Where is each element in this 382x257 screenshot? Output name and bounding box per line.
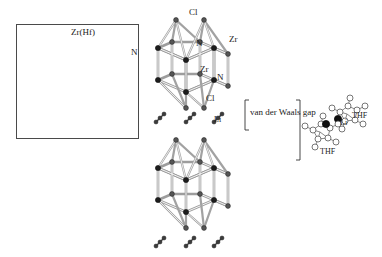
label-li-interlayer: Li [214, 116, 221, 124]
label-zr-upper: Zr [229, 35, 238, 44]
label-thf-upper: THF [352, 112, 367, 120]
label-nitrogen-legend: N [131, 48, 138, 57]
honeycomb-panel-frame [16, 24, 139, 139]
upper-slab [155, 18, 230, 111]
label-zr-middle: Zr [200, 65, 209, 74]
label-thf-lower: THF [320, 148, 335, 156]
label-cl-bottom: Cl [206, 94, 215, 103]
label-n-middle: N [217, 73, 224, 82]
label-metal-legend: Zr(Hf) [71, 28, 95, 37]
crystal-structure-figure: Zr(Hf) N Cl N Zr Zr N Cl Li van der Waal… [0, 0, 382, 257]
label-cl-top: Cl [189, 8, 198, 17]
label-li-upper: Li [340, 119, 347, 127]
lower-slab-atoms [155, 138, 230, 231]
upper-slab-atoms [155, 18, 230, 111]
lithium-layer-lower [154, 236, 224, 248]
li-thf-complex [302, 95, 368, 150]
label-n-upper: N [196, 39, 203, 48]
li-atom-lower [322, 120, 329, 127]
label-van-der-waals-gap: van der Waals gap [250, 108, 316, 117]
lower-slab [155, 138, 230, 231]
